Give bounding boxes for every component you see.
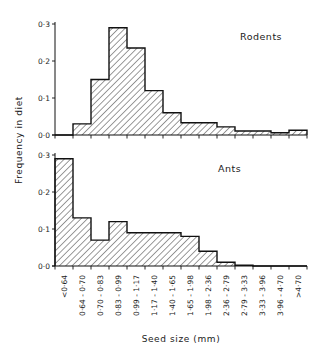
x-category-label: 0·83 - 0·99: [114, 275, 123, 316]
y-tick-label: 0·3: [38, 151, 50, 160]
histogram-bar: [145, 233, 163, 266]
x-category-label: 2·36 - 2·79: [222, 275, 231, 316]
histogram-bar: [199, 251, 217, 266]
histogram-bar: [217, 127, 235, 135]
x-category-labels: <0·640·64 - 0·700·70 - 0·830·83 - 0·990·…: [60, 275, 303, 316]
y-tick-label: 0·1: [38, 225, 50, 234]
x-category-label: <0·64: [60, 275, 69, 298]
y-tick-label: 0·1: [38, 94, 50, 103]
y-tick-label: 0·2: [38, 188, 50, 197]
histogram-bar: [73, 218, 91, 266]
panel-title: Ants: [218, 163, 241, 174]
histogram-bar: [91, 80, 109, 136]
histogram-bar: [55, 159, 73, 266]
x-category-label: 1·40 - 1·65: [168, 275, 177, 316]
x-category-label: 3·33 - 3·96: [258, 275, 267, 316]
histogram-bar: [163, 233, 181, 266]
histogram-bar: [109, 222, 127, 266]
x-category-label: 0·70 - 0·83: [96, 275, 105, 316]
x-category-label: 2·79 - 3·33: [240, 275, 249, 316]
x-category-label: 0·99 - 1·17: [132, 275, 141, 316]
x-category-label: >4·70: [294, 275, 303, 298]
histogram-bar: [91, 240, 109, 266]
histogram-bar: [289, 130, 307, 135]
histogram-bar: [199, 123, 217, 135]
histogram-bar: [181, 236, 199, 266]
y-axis-title: Frequency in diet: [14, 96, 24, 184]
y-tick-label: 0·0: [38, 262, 50, 271]
histogram-bar: [163, 113, 181, 135]
histogram-bar: [127, 48, 145, 135]
y-tick-label: 0·3: [38, 20, 50, 29]
x-category-label: 0·64 - 0·70: [78, 275, 87, 316]
histogram-bar: [145, 91, 163, 135]
panel-title: Rodents: [240, 31, 282, 42]
x-category-label: 1·17 - 1·40: [150, 275, 159, 316]
x-category-label: 1·98 - 2·36: [204, 275, 213, 316]
y-tick-label: 0·0: [38, 131, 50, 140]
x-axis-title: Seed size (mm): [142, 334, 221, 344]
rodents-panel: 0·00·10·20·3Rodents: [38, 20, 307, 140]
x-category-label: 1·65 - 1·98: [186, 275, 195, 316]
histogram-bar: [109, 28, 127, 135]
y-tick-label: 0·2: [38, 57, 50, 66]
histogram-bar: [73, 124, 91, 135]
ants-panel: 0·00·10·20·3Ants: [38, 151, 307, 271]
histogram-bar: [181, 123, 199, 135]
seed-size-histogram-figure: 0·00·10·20·3Rodents 0·00·10·20·3Ants <0·…: [0, 0, 324, 361]
histogram-bar: [127, 233, 145, 266]
x-category-label: 3·96 - 4·70: [276, 275, 285, 316]
